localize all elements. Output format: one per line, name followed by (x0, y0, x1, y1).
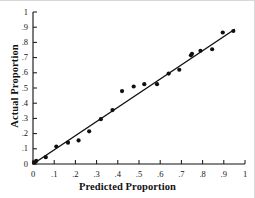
x-tick-label: 1 (237, 169, 253, 179)
y-axis-title: Actual Proportion (9, 16, 20, 156)
x-axis-title: Predicted Proportion (0, 181, 255, 192)
x-tick-label: .9 (216, 169, 232, 179)
y-tick-label: 1 (14, 7, 28, 17)
x-tick-label: .1 (46, 169, 62, 179)
x-tick-label: .4 (110, 169, 126, 179)
x-tick-label: 0 (25, 169, 41, 179)
x-tick-label: .3 (89, 169, 105, 179)
x-tick-label: .2 (67, 169, 83, 179)
x-tick-label: .7 (173, 169, 189, 179)
x-tick-label: .5 (131, 169, 147, 179)
x-tick-label: .6 (152, 169, 168, 179)
y-tick-label: 0 (14, 159, 28, 169)
x-tick-label: .8 (195, 169, 211, 179)
scatter-plot-figure: 0.1.2.3.4.5.6.7.8.91 0.1.2.3.4.5.6.7.8.9… (0, 0, 255, 198)
y-axis-title-wrapper: Actual Proportion (9, 16, 23, 156)
axis-ticks (33, 12, 245, 164)
fit-line (33, 29, 234, 164)
axes (33, 12, 245, 164)
